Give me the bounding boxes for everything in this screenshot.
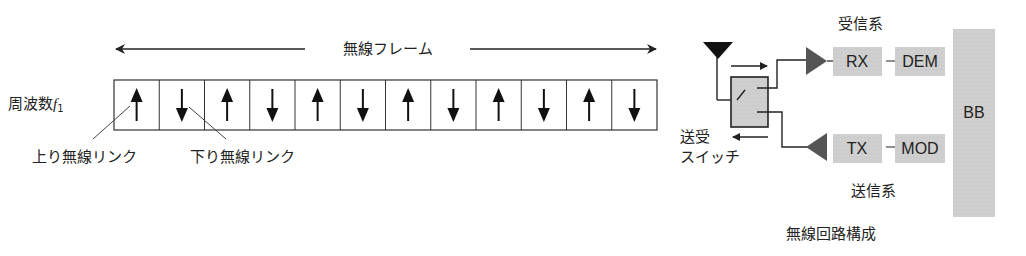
bb-block-label: BB	[963, 104, 984, 121]
tx-rx-switch	[731, 77, 768, 127]
circuit-caption: 無線回路構成	[786, 225, 876, 243]
wireless-diagram: 無線フレーム 周波数f1 上り無線リンク 下り無線リンク 送受 スイッチ 受信系…	[0, 0, 1026, 256]
uplink-label: 上り無線リンク	[32, 148, 137, 166]
rx-group-label: 受信系	[838, 15, 883, 33]
pa-amplifier-icon	[806, 133, 827, 161]
frame-title: 無線フレーム	[343, 40, 433, 58]
tx-block-label: TX	[847, 140, 868, 157]
downlink-label: 下り無線リンク	[190, 148, 295, 166]
dem-block-label: DEM	[902, 53, 938, 70]
frequency-label: 周波数f1	[8, 95, 64, 114]
tx-group-label: 送信系	[851, 182, 896, 200]
antenna-icon	[703, 42, 733, 59]
frame-slots	[114, 80, 657, 130]
baseband-block	[953, 29, 995, 217]
mod-block-label: MOD	[901, 140, 938, 157]
rx-block-label: RX	[846, 53, 869, 70]
lna-amplifier-icon	[806, 47, 827, 75]
switch-label-line2: スイッチ	[680, 148, 740, 166]
switch-label-line1: 送受	[680, 128, 710, 146]
